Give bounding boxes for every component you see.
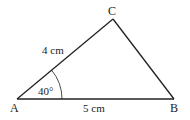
vertex-label-c: C: [108, 4, 116, 18]
vertex-label-b: B: [170, 101, 178, 115]
vertex-label-a: A: [10, 101, 19, 115]
side-label-ab: 5 cm: [83, 102, 105, 114]
triangle-diagram: C A B 4 cm 5 cm 40°: [0, 0, 190, 120]
side-label-ac: 4 cm: [42, 44, 64, 56]
side-ac: [17, 19, 113, 99]
side-bc: [113, 19, 174, 99]
angle-label-a: 40°: [38, 85, 53, 97]
